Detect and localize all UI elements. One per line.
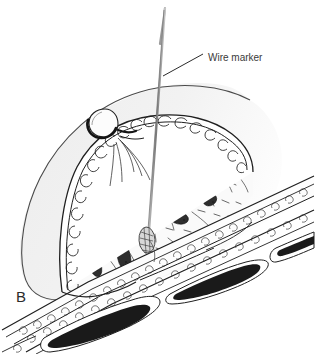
panel-label-b: B bbox=[16, 288, 26, 305]
leader-line-wire-marker bbox=[163, 54, 203, 76]
label-wire-marker: Wire marker bbox=[208, 52, 263, 63]
annotation-wire-marker: Wire marker bbox=[163, 52, 263, 76]
illustration-canvas: Wire marker B bbox=[0, 0, 315, 354]
figure-root: Wire marker B bbox=[0, 0, 315, 354]
